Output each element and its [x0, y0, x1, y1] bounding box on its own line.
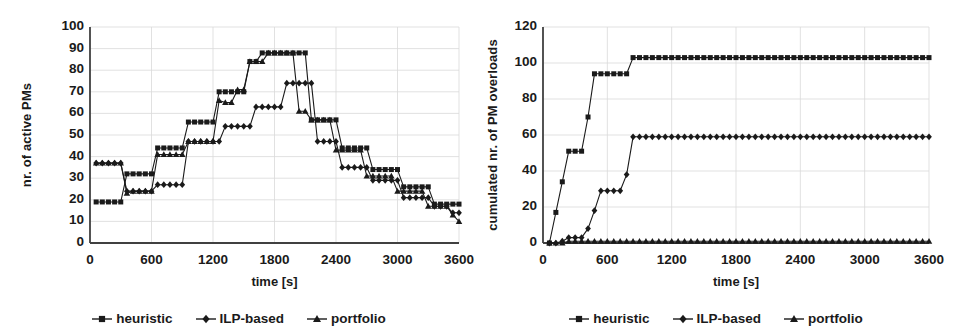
data-point-marker	[913, 133, 919, 140]
data-point-marker	[650, 55, 655, 60]
data-point-marker	[131, 171, 136, 176]
legend-item-heuristic[interactable]: heuristic	[568, 311, 649, 326]
data-point-marker	[785, 55, 790, 60]
data-point-marker	[235, 123, 241, 130]
chart-legend: heuristicILP-basedportfolio	[0, 311, 477, 326]
data-point-marker	[573, 149, 578, 154]
triangle-marker-icon	[306, 313, 328, 325]
data-point-marker	[894, 55, 899, 60]
data-point-marker	[843, 55, 848, 60]
data-point-marker	[669, 55, 674, 60]
data-point-marker	[161, 181, 167, 188]
data-point-marker	[752, 133, 758, 140]
data-point-marker	[824, 55, 829, 60]
series-ilp-based	[547, 133, 932, 246]
x-tick-label: 1200	[181, 252, 245, 267]
data-point-marker	[223, 89, 228, 94]
data-point-marker	[216, 97, 223, 103]
y-tick-label: 90	[42, 40, 84, 55]
data-point-marker	[823, 133, 829, 140]
data-point-marker	[862, 133, 868, 140]
y-tick-label: 80	[495, 90, 537, 105]
chart-panel-pm-overloads: cumulated nr. of PM overloads time [s] h…	[477, 0, 954, 334]
series-line	[549, 58, 929, 243]
data-point-marker	[352, 164, 358, 171]
x-tick-label: 2400	[304, 252, 368, 267]
data-point-marker	[855, 133, 861, 140]
data-point-marker	[727, 55, 732, 60]
legend-label: portfolio	[331, 311, 386, 326]
data-point-marker	[611, 187, 617, 194]
data-point-marker	[714, 133, 720, 140]
data-point-marker	[708, 55, 713, 60]
series-portfolio	[546, 238, 932, 246]
data-point-marker	[759, 55, 764, 60]
data-point-marker	[695, 133, 701, 140]
data-point-marker	[284, 80, 290, 87]
data-point-marker	[457, 202, 462, 207]
data-point-marker	[161, 145, 166, 150]
data-point-marker	[179, 181, 185, 188]
x-tick-label: 600	[575, 252, 639, 267]
data-point-marker	[907, 55, 912, 60]
data-point-marker	[450, 202, 455, 207]
data-point-marker	[364, 145, 369, 150]
x-tick-label: 2400	[768, 252, 832, 267]
data-point-marker	[198, 120, 203, 125]
data-point-marker	[682, 133, 688, 140]
data-point-marker	[155, 145, 160, 150]
data-point-marker	[701, 55, 706, 60]
data-point-marker	[714, 55, 719, 60]
data-point-marker	[656, 133, 662, 140]
data-point-marker	[836, 133, 842, 140]
data-point-marker	[260, 50, 265, 55]
data-point-marker	[926, 133, 932, 140]
data-point-marker	[643, 55, 648, 60]
data-point-marker	[753, 55, 758, 60]
data-point-marker	[894, 133, 900, 140]
chart-panel-active-pms: nr. of active PMs time [s] heuristicILP-…	[0, 0, 477, 334]
legend-item-ilp-based[interactable]: ILP-based	[195, 311, 285, 326]
series-line	[96, 53, 459, 204]
y-tick-label: 70	[42, 83, 84, 98]
data-point-marker	[920, 133, 926, 140]
y-tick-label: 50	[42, 126, 84, 141]
legend-item-heuristic[interactable]: heuristic	[91, 311, 172, 326]
data-point-marker	[592, 71, 597, 76]
data-point-marker	[631, 55, 636, 60]
legend-item-portfolio[interactable]: portfolio	[783, 311, 863, 326]
data-point-marker	[112, 199, 117, 204]
diamond-marker-icon	[195, 313, 217, 325]
data-point-marker	[94, 199, 99, 204]
data-point-marker	[740, 55, 745, 60]
data-point-marker	[791, 133, 797, 140]
data-point-marker	[624, 71, 629, 76]
data-point-marker	[765, 133, 771, 140]
legend-label: portfolio	[808, 311, 863, 326]
data-point-marker	[888, 133, 894, 140]
x-tick-label: 0	[58, 252, 122, 267]
data-point-marker	[849, 55, 854, 60]
data-point-marker	[124, 171, 129, 176]
data-point-marker	[604, 187, 610, 194]
data-point-marker	[707, 133, 713, 140]
data-point-marker	[229, 89, 234, 94]
data-point-marker	[862, 55, 867, 60]
legend-item-portfolio[interactable]: portfolio	[306, 311, 386, 326]
data-point-marker	[611, 71, 616, 76]
data-point-marker	[914, 55, 919, 60]
data-point-marker	[303, 50, 308, 55]
legend-item-ilp-based[interactable]: ILP-based	[672, 311, 762, 326]
data-point-marker	[118, 199, 123, 204]
data-point-marker	[315, 138, 321, 145]
data-point-marker	[927, 55, 932, 60]
y-axis-title: nr. of active PMs	[19, 83, 34, 187]
data-point-marker	[688, 55, 693, 60]
data-point-marker	[907, 133, 913, 140]
data-point-marker	[798, 55, 803, 60]
data-point-marker	[772, 55, 777, 60]
data-point-marker	[395, 167, 400, 172]
data-point-marker	[637, 133, 643, 140]
data-point-marker	[566, 149, 571, 154]
data-point-marker	[186, 120, 191, 125]
